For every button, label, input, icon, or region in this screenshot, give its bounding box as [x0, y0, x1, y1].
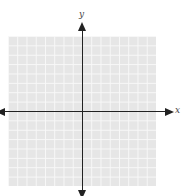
x-axis-label: x	[175, 105, 180, 115]
x-axis-left-arrow-icon	[0, 108, 5, 116]
x-axis	[0, 111, 168, 112]
y-axis-label: y	[79, 9, 84, 19]
y-axis-arrow-icon	[78, 22, 86, 31]
x-axis-arrow-icon	[165, 108, 174, 116]
y-axis	[82, 26, 83, 196]
y-axis-down-arrow-icon	[78, 190, 86, 196]
